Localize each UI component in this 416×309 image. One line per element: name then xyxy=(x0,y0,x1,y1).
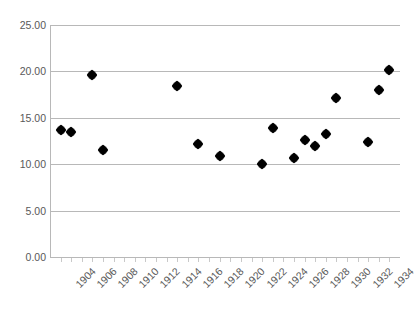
x-tick-label: 1914 xyxy=(178,265,203,290)
x-tick-label: 1926 xyxy=(306,265,331,290)
x-tick-label: 1922 xyxy=(263,265,288,290)
x-tick-label: 1904 xyxy=(72,265,97,290)
x-tick-label: 1918 xyxy=(221,265,246,290)
x-tick-label: 1924 xyxy=(285,265,310,290)
x-tick-label: 1910 xyxy=(136,265,161,290)
x-tick-label: 1912 xyxy=(157,265,182,290)
x-tick-label: 1934 xyxy=(391,265,416,290)
x-tick-label: 1906 xyxy=(94,265,119,290)
x-tick-label: 1920 xyxy=(242,265,267,290)
x-tick-label: 1932 xyxy=(369,265,394,290)
x-tick-label: 1916 xyxy=(200,265,225,290)
x-tick-label: 1908 xyxy=(115,265,140,290)
x-tick-label: 1930 xyxy=(348,265,373,290)
x-tick-label: 1928 xyxy=(327,265,352,290)
